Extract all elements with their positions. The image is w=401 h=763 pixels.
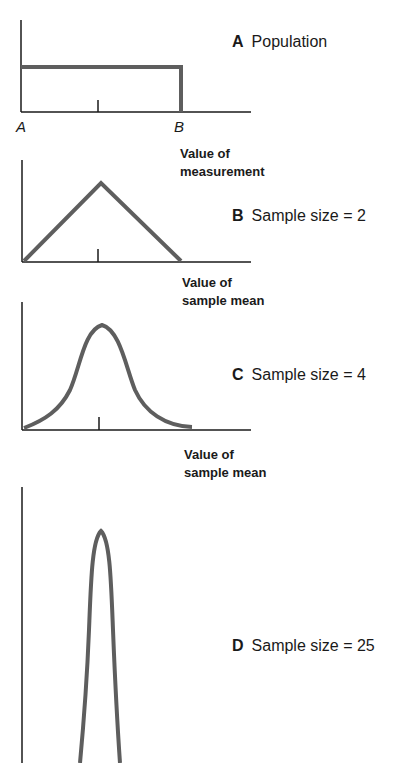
panel-d-title: DSample size = 25 — [232, 637, 375, 655]
panel-b-title: BSample size = 2 — [232, 207, 366, 225]
panel-b-triangle-curve — [24, 183, 181, 261]
x-endpoint-b: B — [174, 118, 184, 135]
panel-a-chart — [21, 20, 251, 112]
panel-d-letter: D — [232, 637, 244, 654]
panel-c-x-caption: Value ofsample mean — [184, 446, 266, 482]
panel-d-title-text: Sample size = 25 — [252, 637, 375, 654]
panel-b-x-caption: Value ofsample mean — [182, 274, 264, 310]
panel-d-narrow-bell-curve — [80, 531, 120, 763]
panel-a-title: APopulation — [232, 33, 327, 51]
panel-a-x-caption: Value ofmeasurement — [180, 145, 265, 181]
panel-c-title-text: Sample size = 4 — [252, 366, 366, 383]
panel-c-title: CSample size = 4 — [232, 366, 366, 384]
panel-d-chart — [22, 487, 120, 763]
panel-a-letter: A — [232, 33, 244, 50]
panel-b-title-text: Sample size = 2 — [252, 207, 366, 224]
x-endpoint-a: A — [16, 118, 26, 135]
panel-a-uniform-curve — [21, 67, 181, 112]
panel-b-letter: B — [232, 207, 244, 224]
panel-c-bell-curve — [24, 325, 192, 428]
panel-a-title-text: Population — [252, 33, 328, 50]
panel-c-letter: C — [232, 366, 244, 383]
panel-c-chart — [22, 302, 251, 430]
